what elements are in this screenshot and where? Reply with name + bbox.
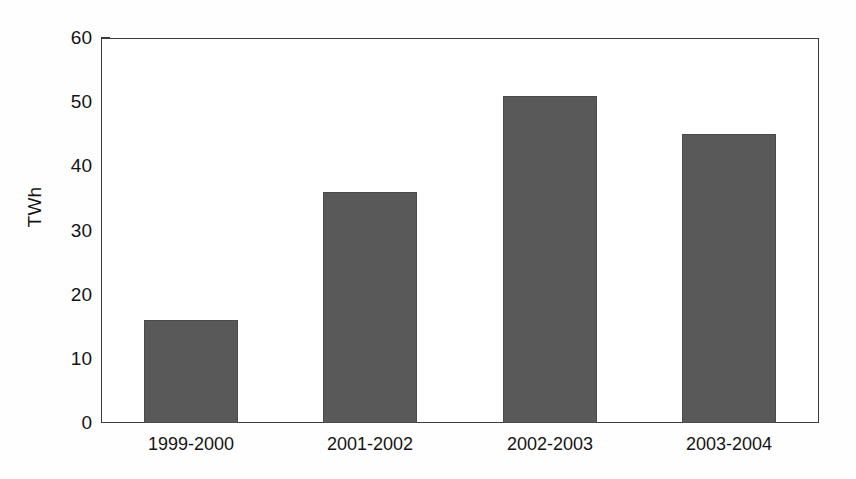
x-axis-label-2003-2004: 2003-2004: [639, 433, 819, 455]
bar-1999-2000: [144, 320, 238, 423]
y-tick-label-wrapper: 50: [40, 92, 92, 111]
y-tick-label-wrapper: 60: [40, 28, 92, 47]
y-tick-label-wrapper: 20: [40, 285, 92, 304]
bar-chart-figure: TWh 60 50 40 30 20 10 0 1999-2000 2001-2…: [0, 0, 856, 479]
y-tick-label-wrapper: 10: [40, 349, 92, 368]
y-tick-label-40: 40: [48, 156, 92, 175]
y-tick-label-10: 10: [48, 349, 92, 368]
y-tick-label-20: 20: [48, 285, 92, 304]
y-tick-label-wrapper: 40: [40, 156, 92, 175]
x-axis-label-2001-2002: 2001-2002: [280, 433, 460, 455]
y-tick-label-50: 50: [48, 92, 92, 111]
bar-2002-2003: [503, 96, 597, 423]
bar-2003-2004: [682, 134, 776, 423]
y-tick-label-wrapper: 0: [40, 413, 92, 432]
y-tick-label-wrapper: 30: [40, 221, 92, 240]
y-tick-label-60: 60: [48, 28, 92, 47]
bar-2001-2002: [323, 192, 417, 423]
y-tick-label-0: 0: [48, 413, 92, 432]
y-tick-label-30: 30: [48, 221, 92, 240]
x-axis-label-1999-2000: 1999-2000: [101, 433, 281, 455]
x-axis-label-2002-2003: 2002-2003: [460, 433, 640, 455]
